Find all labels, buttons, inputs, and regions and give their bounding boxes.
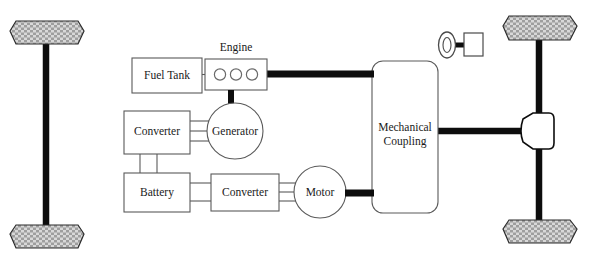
fuel-tank-block: Fuel Tank — [132, 58, 202, 93]
generator-block: Generator — [207, 103, 263, 159]
generator-label: Generator — [212, 125, 258, 137]
mechanical-coupling-block: Mechanical Coupling — [372, 61, 438, 213]
converter-ac-block: Converter — [124, 111, 190, 154]
hybrid-powertrain-diagram: Mechanical Coupling Engine Fuel Tank Gen… — [0, 0, 603, 264]
fuel-tank-label: Fuel Tank — [144, 69, 190, 81]
differential-icon — [521, 113, 554, 149]
converter-dc-label: Converter — [222, 186, 268, 198]
converter-dc-block: Converter — [211, 174, 279, 211]
steering-wheel-icon — [439, 32, 484, 58]
mechanical-coupling-label-2: Coupling — [384, 135, 427, 148]
wheel-rear-right — [503, 220, 577, 243]
battery-label: Battery — [140, 186, 174, 199]
wheel-front-left — [10, 21, 84, 44]
engine-label: Engine — [220, 41, 253, 54]
engine-block: Engine — [205, 41, 267, 90]
dashboard-box — [464, 33, 483, 56]
generator-ac-lines — [190, 121, 209, 141]
dc-bus-battery-converter — [190, 183, 211, 201]
battery-block: Battery — [124, 173, 190, 212]
wheel-front-right — [503, 16, 577, 40]
motor-block: Motor — [294, 166, 346, 218]
diagram-canvas: Mechanical Coupling Engine Fuel Tank Gen… — [0, 0, 603, 264]
dc-bus-converter-battery — [140, 154, 157, 173]
motor-label: Motor — [306, 186, 335, 198]
mechanical-coupling-label-1: Mechanical — [378, 121, 432, 133]
converter-ac-label: Converter — [134, 125, 180, 137]
wheel-rear-left — [10, 225, 84, 248]
engine-cylinder-1 — [214, 69, 225, 80]
engine-cylinder-3 — [246, 69, 257, 80]
engine-cylinder-2 — [230, 69, 241, 80]
